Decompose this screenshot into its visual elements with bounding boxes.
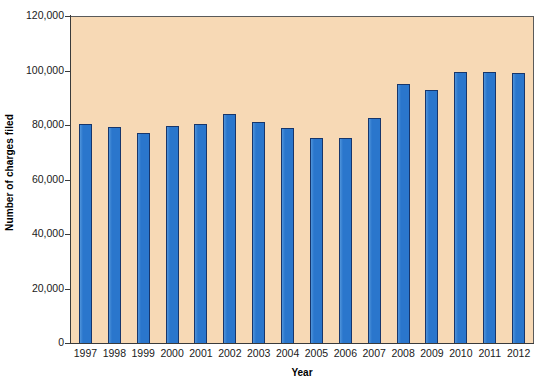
bar-2002 bbox=[223, 114, 236, 344]
bar-highlight bbox=[426, 91, 429, 344]
bar-highlight bbox=[340, 139, 343, 344]
bar-2010 bbox=[454, 72, 467, 344]
y-axis-tick-labels: 0 20,000 40,000 60,000 80,000 100,000 12… bbox=[18, 0, 64, 360]
bar-1997 bbox=[79, 124, 92, 344]
bar-1998 bbox=[108, 127, 121, 344]
bar-2007 bbox=[368, 118, 381, 344]
bar-2008 bbox=[397, 84, 410, 344]
bar-highlight bbox=[311, 139, 314, 344]
bar-2004 bbox=[281, 128, 294, 344]
bar-highlight bbox=[109, 128, 112, 344]
bar-highlight bbox=[80, 125, 83, 344]
bar-highlight bbox=[253, 123, 256, 344]
y-tick-label: 40,000 bbox=[18, 228, 64, 239]
bar-chart-figure: Number of charges filed 0 20,000 40,000 … bbox=[0, 0, 548, 388]
x-axis-line bbox=[70, 343, 534, 344]
y-tick-label: 80,000 bbox=[18, 119, 64, 130]
bar-highlight bbox=[484, 73, 487, 344]
bar-highlight bbox=[455, 73, 458, 344]
y-tick-label: 0 bbox=[18, 337, 64, 348]
y-axis-title: Number of charges filed bbox=[0, 0, 18, 345]
x-tick-label: 2012 bbox=[499, 347, 539, 359]
bar-highlight bbox=[282, 129, 285, 344]
bar-2000 bbox=[166, 126, 179, 344]
bar-highlight bbox=[224, 115, 227, 344]
bar-2005 bbox=[310, 138, 323, 344]
bar-highlight bbox=[195, 125, 198, 344]
y-axis-line bbox=[70, 15, 71, 344]
bar-highlight bbox=[138, 134, 141, 344]
y-tick-label: 20,000 bbox=[18, 283, 64, 294]
x-axis-title: Year bbox=[71, 367, 533, 378]
y-axis-title-label: Number of charges filed bbox=[4, 114, 15, 231]
plot-area bbox=[71, 16, 534, 344]
bar-2011 bbox=[483, 72, 496, 344]
bar-2012 bbox=[512, 73, 525, 344]
bar-2009 bbox=[425, 90, 438, 344]
bar-highlight bbox=[513, 74, 516, 344]
y-tick-label: 60,000 bbox=[18, 174, 64, 185]
y-tick-label: 100,000 bbox=[18, 65, 64, 76]
bar-highlight bbox=[167, 127, 170, 344]
bar-highlight bbox=[398, 85, 401, 344]
bar-2003 bbox=[252, 122, 265, 344]
bar-2006 bbox=[339, 138, 352, 344]
y-tick-label: 120,000 bbox=[18, 10, 64, 21]
x-axis-tick-labels: 1997199819992000200120022003200420052006… bbox=[71, 347, 533, 363]
bar-2001 bbox=[194, 124, 207, 344]
bar-1999 bbox=[137, 133, 150, 344]
bar-highlight bbox=[369, 119, 372, 344]
